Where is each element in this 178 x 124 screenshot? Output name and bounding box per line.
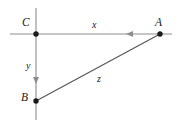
segment-ba [36,34,160,101]
segment-label-z: z [97,74,101,84]
x-direction-arrow [126,31,133,37]
vertex-a-dot [157,31,162,36]
vertex-label-b: B [21,92,28,104]
segment-label-y: y [26,61,30,71]
vertex-label-c: C [22,17,30,29]
vertex-b-dot [33,98,38,103]
vertex-label-a: A [155,17,162,29]
geometry-figure: C A B x y z [0,0,178,124]
segment-label-x: x [92,20,96,30]
vertex-c-dot [33,31,38,36]
y-direction-arrow [33,77,39,84]
